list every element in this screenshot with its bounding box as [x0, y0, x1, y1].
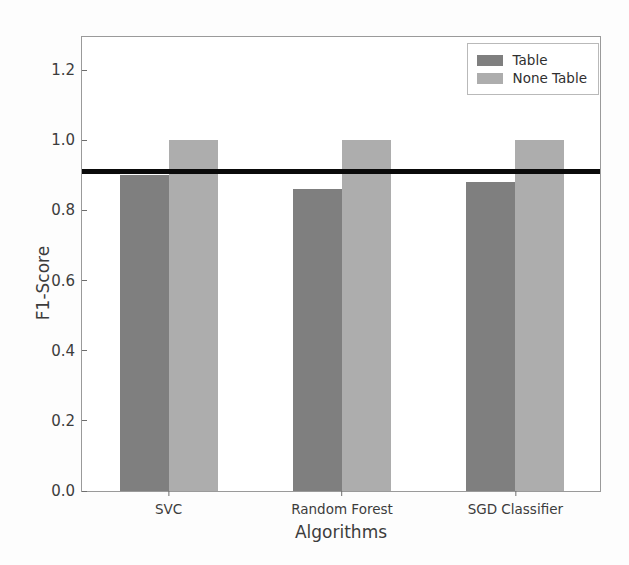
threshold-line [82, 169, 600, 174]
bar-table [466, 182, 515, 491]
legend-swatch-icon [477, 73, 503, 84]
y-axis-tick: 0.6 [51, 272, 82, 290]
y-axis-tick-mark [82, 420, 87, 421]
bar-none-table [515, 140, 564, 491]
y-axis-tick-mark [82, 210, 87, 211]
legend-item-label: None Table [513, 70, 587, 86]
bar-none-table [169, 140, 218, 491]
x-axis-tick: SVC [155, 491, 182, 517]
y-axis-tick-label: 0.4 [51, 342, 82, 360]
bar-table [293, 189, 342, 491]
y-axis-tick: 0.8 [51, 201, 82, 219]
legend-item: None Table [477, 69, 587, 87]
bar-none-table [342, 140, 391, 491]
y-axis-tick: 0.0 [51, 482, 82, 500]
y-axis-tick-label: 1.2 [51, 61, 82, 79]
y-axis-tick-mark [82, 140, 87, 141]
y-axis-tick-label: 0.2 [51, 412, 82, 430]
y-axis-tick-mark [82, 280, 87, 281]
x-axis-tick: Random Forest [291, 491, 393, 517]
legend-swatch-icon [477, 55, 503, 66]
bar-table [120, 175, 169, 491]
y-axis-tick: 0.2 [51, 412, 82, 430]
x-axis-tick-label: SGD Classifier [468, 496, 563, 517]
y-axis-tick: 1.0 [51, 131, 82, 149]
bar-chart-figure: F1-Score Algorithms 0.00.20.40.60.81.01.… [0, 0, 629, 565]
plot-area: 0.00.20.40.60.81.01.2 SVCRandom ForestSG… [81, 36, 601, 492]
y-axis-tick: 1.2 [51, 61, 82, 79]
y-axis-tick: 0.4 [51, 342, 82, 360]
y-axis-tick-label: 0.8 [51, 201, 82, 219]
x-axis-tick-label: SVC [155, 496, 182, 517]
legend: TableNone Table [467, 43, 599, 95]
y-axis-tick-label: 0.6 [51, 272, 82, 290]
y-axis-tick-mark [82, 350, 87, 351]
y-axis-tick-mark [82, 70, 87, 71]
y-axis-tick-label: 1.0 [51, 131, 82, 149]
legend-item: Table [477, 51, 587, 69]
x-axis-title: Algorithms [81, 522, 601, 542]
x-axis-tick: SGD Classifier [468, 491, 563, 517]
x-axis-tick-label: Random Forest [291, 496, 393, 517]
legend-item-label: Table [513, 52, 548, 68]
y-axis-tick-label: 0.0 [51, 482, 82, 500]
y-axis-tick-mark [82, 491, 87, 492]
